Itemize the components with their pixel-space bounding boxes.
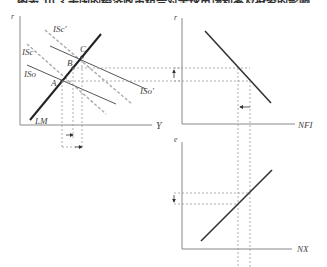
nfi-guides [174, 68, 250, 267]
iso-prime-curve [50, 46, 146, 89]
point-a-label: A [50, 78, 57, 88]
iso-label: ISo [23, 69, 36, 79]
lm-label: LM [34, 116, 48, 126]
nfi-panel: r NFI [174, 13, 314, 267]
nx-panel: e NX [174, 135, 309, 254]
nfi-y-label: r [174, 13, 178, 22]
point-b-label: B [67, 58, 73, 68]
point-c-label: C [80, 44, 87, 54]
islm-panel: r Y ISc' ISc ISo ISo' LM A B C [11, 12, 250, 147]
isc-label: ISc [21, 47, 34, 57]
isc-curve [27, 44, 106, 114]
nx-y-label: e [174, 135, 178, 144]
isc-prime-label: ISc' [52, 24, 67, 34]
nx-x-label: NX [296, 244, 309, 254]
isc-prime-curve [45, 30, 132, 104]
nfi-x-label: NFI [297, 120, 314, 130]
islm-y-label: r [11, 12, 15, 21]
islm-guides [62, 57, 250, 147]
iso-prime-label: ISo' [139, 86, 155, 96]
nx-curve [201, 170, 272, 241]
islm-x-label: Y [156, 120, 163, 131]
diagram-canvas: r Y ISc' ISc ISo ISo' LM A B C [0, 0, 327, 267]
